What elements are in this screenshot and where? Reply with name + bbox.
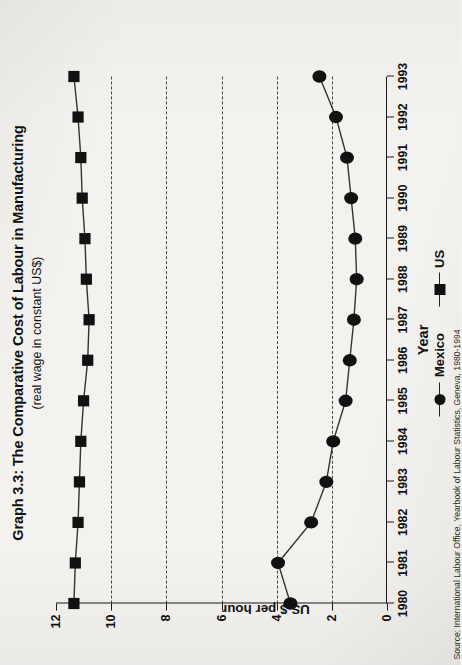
data-point-us [77, 192, 88, 203]
data-series-plot [56, 76, 387, 603]
data-point-us [78, 395, 89, 406]
y-tick-label: 10 [104, 614, 118, 628]
x-tick [387, 399, 394, 400]
plot-area: US $ per hour 024681012 1980198119821983… [56, 76, 387, 603]
x-tick [387, 237, 394, 238]
data-point-us [82, 354, 93, 365]
x-tick-label: 1987 [396, 306, 410, 333]
data-point-mexico [319, 475, 333, 487]
x-tick-label: 1980 [396, 589, 410, 616]
x-tick [387, 521, 394, 522]
data-point-mexico [350, 272, 364, 284]
data-point-mexico [344, 191, 358, 203]
data-point-us [72, 111, 83, 122]
y-tick [277, 603, 278, 610]
y-tick [111, 603, 112, 610]
x-tick-label: 1984 [396, 427, 410, 454]
y-tick-label: 2 [325, 614, 339, 621]
data-point-us [70, 557, 81, 568]
data-point-mexico [283, 597, 297, 609]
y-tick-label: 6 [215, 614, 229, 621]
data-point-us [74, 476, 85, 487]
data-point-mexico [340, 151, 354, 163]
x-tick-label: 1982 [396, 508, 410, 535]
x-axis-label: Year [415, 76, 431, 603]
data-point-mexico [347, 313, 361, 325]
y-tick [56, 603, 57, 610]
x-tick [387, 602, 394, 603]
x-tick-label: 1985 [396, 387, 410, 414]
y-tick-label: 8 [159, 614, 173, 621]
x-tick [387, 197, 394, 198]
y-tick-label: 4 [270, 614, 284, 621]
x-tick-label: 1990 [396, 184, 410, 211]
y-tick [222, 603, 223, 610]
legend-label-mexico: Mexico [432, 333, 447, 377]
x-tick [387, 480, 394, 481]
data-point-mexico [312, 70, 326, 82]
x-tick [387, 75, 394, 76]
x-tick-label: 1986 [396, 346, 410, 373]
x-tick-label: 1981 [396, 549, 410, 576]
data-point-us [75, 151, 86, 162]
data-point-mexico [304, 516, 318, 528]
x-tick-label: 1989 [396, 224, 410, 251]
data-point-mexico [343, 354, 357, 366]
data-point-us [72, 516, 83, 527]
x-tick-label: 1991 [396, 143, 410, 170]
data-point-mexico [348, 232, 362, 244]
legend-line-us [439, 273, 440, 307]
x-tick [387, 561, 394, 562]
source-note: Source: International Labour Office, Yea… [452, 0, 462, 665]
data-point-mexico [339, 394, 353, 406]
x-tick-label: 1992 [396, 103, 410, 130]
x-tick-label: 1988 [396, 265, 410, 292]
data-point-us [75, 435, 86, 446]
data-point-us [79, 233, 90, 244]
legend-line-mexico [439, 382, 440, 416]
y-tick [387, 603, 388, 610]
legend-item-mexico[interactable]: Mexico [432, 333, 447, 416]
data-point-mexico [329, 110, 343, 122]
x-tick-label: 1993 [396, 62, 410, 89]
chart-legend: Mexico US [432, 0, 447, 665]
x-tick [387, 359, 394, 360]
data-point-us [81, 273, 92, 284]
x-tick [387, 156, 394, 157]
legend-item-us[interactable]: US [432, 249, 447, 306]
x-tick [387, 278, 394, 279]
x-tick-label: 1983 [396, 468, 410, 495]
circle-marker-icon [435, 393, 446, 404]
y-tick [166, 603, 167, 610]
chart-title: Graph 3.3: The Comparative Cost of Labou… [10, 0, 26, 665]
y-tick-label: 0 [380, 614, 394, 621]
data-point-us [68, 70, 79, 81]
chart-subtitle: (real wage in constant US$) [30, 0, 44, 665]
x-tick [387, 318, 394, 319]
data-point-us [84, 314, 95, 325]
data-point-mexico [326, 435, 340, 447]
data-point-us [68, 597, 79, 608]
y-tick [332, 603, 333, 610]
legend-label-us: US [432, 249, 447, 267]
x-tick [387, 116, 394, 117]
square-marker-icon [435, 284, 446, 295]
data-point-mexico [271, 556, 285, 568]
y-tick-label: 12 [49, 614, 63, 628]
x-tick [387, 440, 394, 441]
